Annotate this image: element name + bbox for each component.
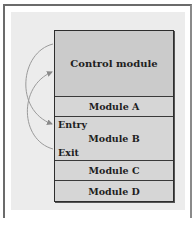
module-c-label: Module C xyxy=(89,165,140,176)
module-b-label: Module B xyxy=(88,133,139,144)
module-b: Entry Module B Exit xyxy=(55,117,173,161)
control-module-label: Control module xyxy=(70,58,157,69)
module-stack: Control module Module A Entry Module B E… xyxy=(54,30,174,202)
control-module: Control module xyxy=(55,31,173,97)
module-c: Module C xyxy=(55,161,173,181)
module-d: Module D xyxy=(55,181,173,201)
entry-label: Entry xyxy=(58,119,87,130)
exit-label: Exit xyxy=(58,147,79,158)
module-a: Module A xyxy=(55,97,173,117)
module-a-label: Module A xyxy=(89,101,140,112)
module-d-label: Module D xyxy=(88,186,140,197)
